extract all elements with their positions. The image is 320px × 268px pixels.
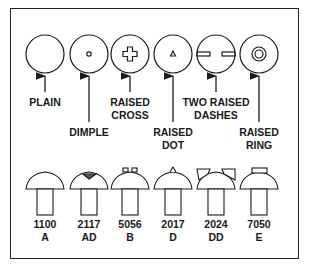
raised-dot-head-icon — [154, 35, 192, 73]
rivet-2117-icon — [70, 172, 108, 215]
label-two-raised-dashes: TWO RAISED DASHES — [182, 96, 249, 121]
rivet-7050-icon — [240, 168, 278, 215]
raised-ring-head-icon — [240, 35, 278, 73]
label-dimple: DIMPLE — [69, 126, 109, 139]
label-plain: PLAIN — [29, 96, 61, 109]
rivet-alloy-label: 2017D — [161, 218, 184, 244]
rivet-1100-icon — [26, 172, 64, 215]
rivet-5056-icon — [111, 168, 149, 215]
rivet-alloy-label: 1100A — [34, 218, 57, 244]
plain-head-icon — [26, 35, 64, 73]
rivet-2017-icon — [154, 167, 192, 215]
raised-cross-head-icon — [111, 35, 149, 73]
rivet-alloy-label: 7050E — [247, 218, 270, 244]
label-raised-ring: RAISED RING — [239, 126, 279, 151]
rivet-alloy-label: 5056B — [118, 218, 141, 244]
label-raised-cross: RAISED CROSS — [110, 96, 150, 121]
rivet-alloy-label: 2117AD — [78, 218, 101, 244]
rivet-alloy-label: 2024DD — [204, 218, 227, 244]
label-raised-dot: RAISED DOT — [153, 126, 193, 151]
rivet-2024-icon — [197, 169, 235, 215]
two-raised-dashes-head-icon — [197, 35, 235, 73]
dimple-head-icon — [70, 35, 108, 73]
